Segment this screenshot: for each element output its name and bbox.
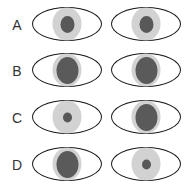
right-eye — [111, 100, 181, 134]
iris — [132, 54, 161, 87]
left-eye — [32, 147, 102, 181]
pupil — [56, 57, 78, 84]
row-d: D — [0, 147, 191, 183]
row-a: A — [0, 7, 191, 43]
right-eye — [111, 53, 181, 87]
iris — [53, 148, 82, 181]
row-b: B — [0, 53, 191, 89]
iris — [53, 8, 82, 41]
pupil — [142, 159, 151, 169]
pupil — [135, 104, 157, 131]
iris — [132, 148, 161, 181]
pupil — [63, 112, 72, 122]
row-label: D — [10, 158, 24, 172]
row-label: A — [10, 18, 24, 32]
iris — [132, 101, 161, 134]
iris — [132, 8, 161, 41]
pupil — [139, 16, 153, 33]
pupil — [56, 151, 78, 178]
iris — [53, 54, 82, 87]
row-c: C — [0, 100, 191, 136]
right-eye — [111, 7, 181, 41]
left-eye — [32, 7, 102, 41]
row-label: C — [10, 111, 24, 125]
row-label: B — [10, 64, 24, 78]
pupil — [135, 57, 157, 84]
right-eye — [111, 147, 181, 181]
pupil — [60, 16, 74, 33]
left-eye — [32, 100, 102, 134]
iris — [53, 101, 82, 134]
left-eye — [32, 53, 102, 87]
